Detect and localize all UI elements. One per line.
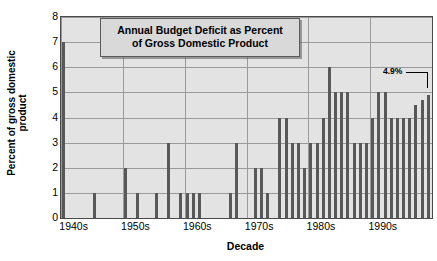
x-axis-tick-label: 1940s: [59, 220, 88, 232]
bar: [353, 143, 356, 218]
bar: [340, 92, 343, 218]
annotation-leader-horizontal: [406, 72, 428, 73]
bar: [124, 168, 127, 218]
value-annotation: 4.9%: [383, 66, 402, 76]
bar: [136, 193, 139, 218]
x-axis-tick-label: 1990s: [368, 220, 397, 232]
bar: [285, 118, 288, 219]
x-axis-tick-label: 1980s: [307, 220, 336, 232]
bar: [371, 118, 374, 219]
bar: [198, 193, 201, 218]
bar: [192, 193, 195, 218]
y-axis-tick-label: 6: [38, 60, 58, 72]
bar: [322, 118, 325, 219]
y-axis-tick-label: 0: [38, 211, 58, 223]
bar: [155, 193, 158, 218]
bar: [414, 105, 417, 218]
y-axis-tick-label: 3: [38, 136, 58, 148]
bar: [309, 143, 312, 218]
bar: [62, 42, 65, 218]
bar: [384, 92, 387, 218]
bar: [278, 118, 281, 219]
x-axis-tick-label: 1970s: [245, 220, 274, 232]
y-axis-tick-label: 4: [38, 111, 58, 123]
bar: [316, 143, 319, 218]
chart-figure: Percent of gross domestic product 012345…: [0, 0, 437, 261]
bar: [427, 95, 430, 218]
x-axis-tick-label: 1950s: [121, 220, 150, 232]
bar: [297, 143, 300, 218]
bar: [254, 168, 257, 218]
bar: [408, 118, 411, 219]
x-axis-tick-label: 1960s: [183, 220, 212, 232]
bar: [377, 92, 380, 218]
chart-title-box: Annual Budget Deficit as Percent of Gros…: [100, 18, 300, 57]
bar: [402, 118, 405, 219]
annotation-leader-vertical: [427, 72, 428, 88]
y-axis-title-line2: product: [17, 94, 28, 131]
bar: [421, 100, 424, 218]
bar: [390, 118, 393, 219]
chart-title-line1: Annual Budget Deficit as Percent: [117, 24, 283, 36]
y-axis-tick-label: 8: [38, 10, 58, 22]
bar: [291, 143, 294, 218]
x-axis-title: Decade: [60, 240, 431, 252]
bar: [229, 193, 232, 218]
bar: [359, 143, 362, 218]
y-axis-title-line1: Percent of gross domestic: [6, 50, 17, 176]
y-axis-ticks: 012345678: [34, 0, 58, 261]
bar: [260, 168, 263, 218]
bar: [334, 92, 337, 218]
y-axis-tick-label: 1: [38, 186, 58, 198]
bar: [179, 193, 182, 218]
y-axis-tick-label: 7: [38, 35, 58, 47]
y-axis-tick-label: 2: [38, 161, 58, 173]
bar: [186, 193, 189, 218]
bar: [266, 193, 269, 218]
bar: [328, 67, 331, 218]
bar: [365, 143, 368, 218]
bar: [303, 168, 306, 218]
y-axis-title: Percent of gross domestic product: [0, 0, 34, 225]
bar: [93, 193, 96, 218]
bar: [167, 143, 170, 218]
y-axis-tick-label: 5: [38, 85, 58, 97]
x-axis-ticks: 1940s1950s1960s1970s1980s1990s: [60, 220, 431, 236]
bar: [346, 92, 349, 218]
chart-title-line2: of Gross Domestic Product: [132, 37, 268, 49]
bar: [235, 143, 238, 218]
bar: [396, 118, 399, 219]
